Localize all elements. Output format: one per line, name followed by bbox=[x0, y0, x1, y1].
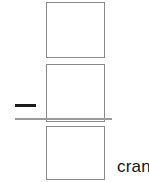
box-middle[interactable] bbox=[46, 64, 105, 122]
box-top[interactable] bbox=[46, 2, 105, 58]
screenshot-canvas: cran bbox=[0, 0, 149, 182]
box-bottom[interactable] bbox=[46, 126, 105, 180]
clipped-word-label: cran bbox=[117, 157, 149, 177]
horizontal-rule-icon bbox=[15, 118, 112, 120]
minus-dash-icon bbox=[15, 104, 36, 107]
